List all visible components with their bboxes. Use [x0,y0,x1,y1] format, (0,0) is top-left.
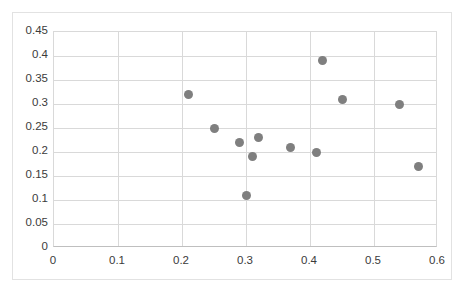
gridline-horizontal [54,200,436,201]
data-point [254,133,263,142]
gridline-vertical [246,32,247,246]
x-axis-tick-labels: 00.10.20.30.40.50.6 [0,255,464,275]
scatter-chart: 00.050.10.150.20.250.30.350.40.45 00.10.… [0,0,464,296]
gridline-horizontal [54,128,436,129]
y-tick-label: 0.35 [26,73,48,85]
x-tick-label: 0.4 [301,255,317,267]
x-tick-label: 0.5 [365,255,381,267]
gridline-vertical [118,32,119,246]
data-point [338,95,347,104]
gridline-horizontal [54,80,436,81]
y-tick-label: 0.4 [32,49,48,61]
data-point [235,138,244,147]
data-point [242,191,251,200]
gridline-horizontal [54,224,436,225]
gridline-horizontal [54,152,436,153]
data-point [318,56,327,65]
data-point [395,100,404,109]
gridline-horizontal [54,104,436,105]
y-tick-label: 0.3 [32,97,48,109]
y-tick-label: 0 [42,241,48,253]
data-point [210,124,219,133]
y-tick-label: 0.25 [26,121,48,133]
data-point [414,162,423,171]
y-axis-tick-labels: 00.050.10.150.20.250.30.350.40.45 [0,0,48,296]
y-tick-label: 0.1 [32,193,48,205]
gridline-vertical [182,32,183,246]
y-tick-label: 0.2 [32,145,48,157]
x-tick-label: 0.3 [237,255,253,267]
gridline-vertical [310,32,311,246]
data-point [286,143,295,152]
x-tick-label: 0.2 [173,255,189,267]
x-tick-label: 0 [50,255,56,267]
y-tick-label: 0.45 [26,25,48,37]
y-tick-label: 0.05 [26,217,48,229]
x-tick-label: 0.1 [109,255,125,267]
data-point [184,90,193,99]
gridline-horizontal [54,56,436,57]
data-point [248,152,257,161]
data-point [312,148,321,157]
y-tick-label: 0.15 [26,169,48,181]
gridline-vertical [374,32,375,246]
plot-area [53,31,437,247]
x-tick-label: 0.6 [429,255,445,267]
gridline-horizontal [54,176,436,177]
